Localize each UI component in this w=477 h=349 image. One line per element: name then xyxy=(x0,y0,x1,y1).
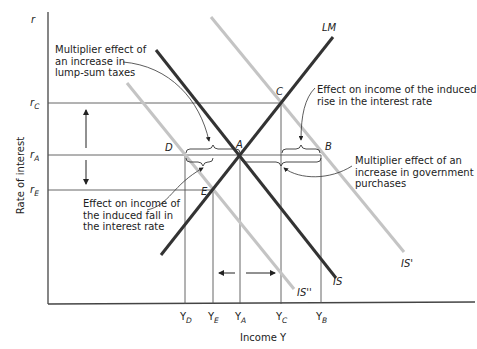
lm-curve xyxy=(161,37,333,255)
y-axis-symbol: r xyxy=(31,14,35,26)
x-axis xyxy=(48,302,475,304)
annotation-interest-rise: Effect on income of the induced rise in … xyxy=(317,84,477,107)
lm-label: LM xyxy=(322,22,336,34)
y-axis-title: Rate of interest xyxy=(15,137,26,214)
point-d-label: D xyxy=(165,142,173,154)
x-axis-title: Income Y xyxy=(240,332,286,344)
ra-label: rA xyxy=(30,149,39,162)
ya-label: YA xyxy=(235,311,246,324)
yb-label: YB xyxy=(316,311,327,324)
rc-label: rC xyxy=(30,97,39,110)
is-prime-label: IS' xyxy=(401,258,413,270)
is-double-prime-curve xyxy=(127,83,294,289)
yc-label: YC xyxy=(276,311,287,324)
point-b-label: B xyxy=(325,141,332,153)
yd-label: YD xyxy=(180,311,192,324)
brace-rise xyxy=(282,145,320,153)
is-curve xyxy=(156,50,336,278)
annotation-interest-fall: Effect on income of the induced fall in … xyxy=(83,198,180,233)
annotation-government-purchases: Multiplier effect of an increase in gove… xyxy=(355,155,474,190)
pointer-rise xyxy=(301,88,315,140)
point-a-label: A xyxy=(236,139,243,151)
is-label: IS xyxy=(333,276,342,288)
annotation-lump-sum-taxes: Multiplier effect of an increase in lump… xyxy=(55,44,146,79)
point-c-label: C xyxy=(276,86,283,98)
point-e-label: E xyxy=(201,186,207,198)
is-double-prime-label: IS'' xyxy=(297,287,312,299)
re-label: rE xyxy=(30,184,39,197)
ye-label: YE xyxy=(208,311,219,324)
